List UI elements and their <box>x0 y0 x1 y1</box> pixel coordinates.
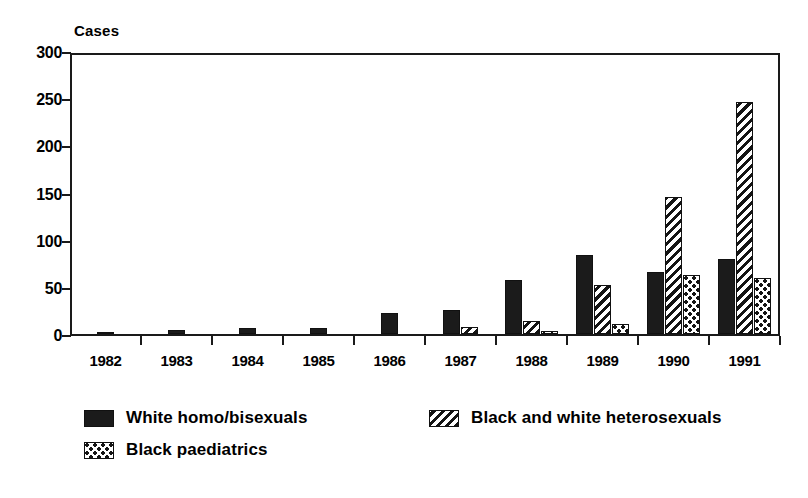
y-tick-mark <box>62 288 71 290</box>
x-tick-label: 1985 <box>284 352 354 369</box>
bar <box>665 197 682 334</box>
bar <box>310 328 327 334</box>
chart-legend: White homo/bisexuals Black and white het… <box>84 408 784 472</box>
x-tick-label: 1984 <box>213 352 283 369</box>
x-tick-label: 1991 <box>710 352 780 369</box>
bar <box>443 310 460 334</box>
bar <box>168 330 185 334</box>
legend-row-2: Black paediatrics <box>84 440 784 472</box>
diagonal-hatch-swatch-icon <box>429 410 459 427</box>
legend-row-1: White homo/bisexuals Black and white het… <box>84 408 784 440</box>
y-tick-mark <box>62 146 71 148</box>
checkered-dots-swatch-icon <box>84 442 114 459</box>
x-tick-mark <box>140 336 142 345</box>
bar <box>647 272 664 334</box>
plot-area <box>70 53 780 336</box>
y-tick-label: 150 <box>20 186 62 204</box>
bar <box>97 332 114 335</box>
y-tick-label: 100 <box>20 233 62 251</box>
y-tick-label: 50 <box>20 280 62 298</box>
legend-label: Black and white heterosexuals <box>471 408 721 428</box>
x-tick-mark <box>779 336 781 345</box>
x-tick-label: 1989 <box>568 352 638 369</box>
x-tick-mark <box>353 336 355 345</box>
bar-chart: Cases 0501001502002503001982198319841985… <box>0 0 808 498</box>
x-tick-mark <box>211 336 213 345</box>
x-tick-label: 1988 <box>497 352 567 369</box>
y-tick-label: 250 <box>20 91 62 109</box>
x-tick-mark <box>637 336 639 345</box>
legend-item-white-homo-bisexuals: White homo/bisexuals <box>84 408 307 428</box>
x-tick-mark <box>495 336 497 345</box>
bar <box>505 280 522 334</box>
bar <box>576 255 593 334</box>
y-tick-mark <box>62 99 71 101</box>
x-tick-label: 1987 <box>426 352 496 369</box>
bar <box>754 278 771 334</box>
solid-black-swatch-icon <box>84 410 114 427</box>
x-tick-mark <box>282 336 284 345</box>
y-tick-mark <box>62 194 71 196</box>
legend-label: White homo/bisexuals <box>126 408 307 428</box>
y-tick-label: 200 <box>20 138 62 156</box>
y-tick-mark <box>62 335 71 337</box>
legend-item-black-and-white-heterosexuals: Black and white heterosexuals <box>429 408 721 428</box>
bar <box>612 324 629 334</box>
bar <box>594 285 611 334</box>
legend-label: Black paediatrics <box>126 440 268 460</box>
bar <box>239 328 256 334</box>
bar <box>718 259 735 334</box>
legend-item-black-paediatrics: Black paediatrics <box>84 440 268 460</box>
y-tick-mark <box>62 241 71 243</box>
bar <box>683 275 700 334</box>
y-axis-title: Cases <box>74 22 119 39</box>
x-tick-mark <box>566 336 568 345</box>
x-tick-label: 1990 <box>639 352 709 369</box>
x-tick-label: 1986 <box>355 352 425 369</box>
x-tick-label: 1983 <box>142 352 212 369</box>
x-tick-mark <box>424 336 426 345</box>
x-tick-label: 1982 <box>71 352 141 369</box>
bar <box>736 102 753 334</box>
y-tick-label: 0 <box>20 327 62 345</box>
x-tick-mark <box>708 336 710 345</box>
bar <box>381 313 398 334</box>
bar <box>523 321 540 334</box>
y-tick-mark <box>62 52 71 54</box>
y-tick-label: 300 <box>20 44 62 62</box>
bar <box>541 331 558 334</box>
bar <box>461 327 478 334</box>
